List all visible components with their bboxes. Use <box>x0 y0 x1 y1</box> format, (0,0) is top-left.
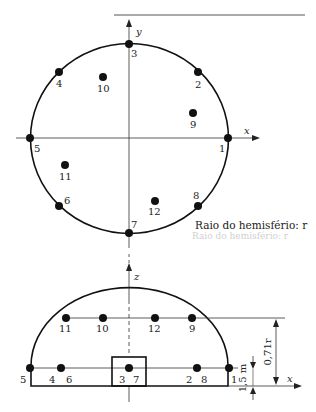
point-1-elev <box>225 364 233 372</box>
point-label: 3 <box>131 48 137 59</box>
point-11-elev <box>62 314 70 322</box>
point-7 <box>125 229 133 237</box>
point-label: 1 <box>219 143 225 154</box>
point-12-elev <box>151 314 159 322</box>
point-8 <box>194 202 202 210</box>
point-12 <box>151 197 159 205</box>
point-label: 10 <box>96 323 109 334</box>
dimension-arrow-icon <box>250 387 256 394</box>
hemisphere-diagram: y x 1 2 3 4 5 6 7 8 9 10 <box>0 0 316 412</box>
x-axis-arrow-icon <box>252 135 260 141</box>
point-label: 9 <box>190 119 196 130</box>
point-label: 8 <box>193 190 199 201</box>
point-label: 2 <box>195 79 201 90</box>
point-3 <box>125 40 133 48</box>
x-axis-label: x <box>244 125 250 136</box>
radius-caption-ghost: Raio do hemisfério: r <box>192 231 289 241</box>
point-label: 11 <box>59 171 72 182</box>
x-axis-elevation-arrow-icon <box>294 383 302 389</box>
elevation-view: z x 11 10 12 9 5 <box>20 254 302 402</box>
point-6 <box>55 202 63 210</box>
point-10-elev <box>99 314 107 322</box>
dimension-arrow-icon <box>273 319 279 327</box>
point-label: 6 <box>64 195 70 206</box>
point-label: 8 <box>201 374 207 385</box>
point-label: 9 <box>189 323 195 334</box>
point-1 <box>224 134 232 142</box>
point-label: 7 <box>133 374 139 385</box>
dimension-arrow-icon <box>273 377 279 385</box>
point-label: 5 <box>34 143 40 154</box>
point-4-6-elev <box>57 364 65 372</box>
y-axis-arrow-icon <box>126 19 132 27</box>
point-9-elev <box>188 314 196 322</box>
point-5-elev <box>26 364 34 372</box>
point-label: 4 <box>49 374 55 385</box>
point-label: 4 <box>56 78 62 89</box>
z-axis-arrow-icon <box>126 263 132 271</box>
y-axis-label: y <box>135 26 142 37</box>
radius-caption: Raio do hemisfério: r <box>195 219 308 231</box>
point-label: 12 <box>148 323 161 334</box>
dimension-upper-label: 0,71r <box>262 338 273 365</box>
point-2-8-elev <box>193 364 201 372</box>
point-label: 6 <box>66 374 72 385</box>
point-4 <box>55 68 63 76</box>
z-axis-label: z <box>133 271 140 282</box>
point-label: 12 <box>148 206 161 217</box>
plan-view: y x 1 2 3 4 5 6 7 8 9 10 <box>16 19 308 248</box>
point-3-7-elev <box>125 364 133 372</box>
x-axis-elevation-label: x <box>287 373 293 384</box>
point-label: 5 <box>20 374 26 385</box>
point-11 <box>61 161 69 169</box>
point-2 <box>194 68 202 76</box>
point-10 <box>99 73 107 81</box>
point-label: 7 <box>131 219 137 230</box>
point-label: 2 <box>186 374 192 385</box>
point-label: 11 <box>59 323 72 334</box>
dimension-lower-label: 1,5 m <box>237 363 248 392</box>
point-label: 3 <box>119 374 125 385</box>
dimension-arrow-icon <box>250 362 256 369</box>
point-label: 10 <box>97 83 110 94</box>
point-9 <box>189 109 197 117</box>
point-5 <box>26 134 34 142</box>
